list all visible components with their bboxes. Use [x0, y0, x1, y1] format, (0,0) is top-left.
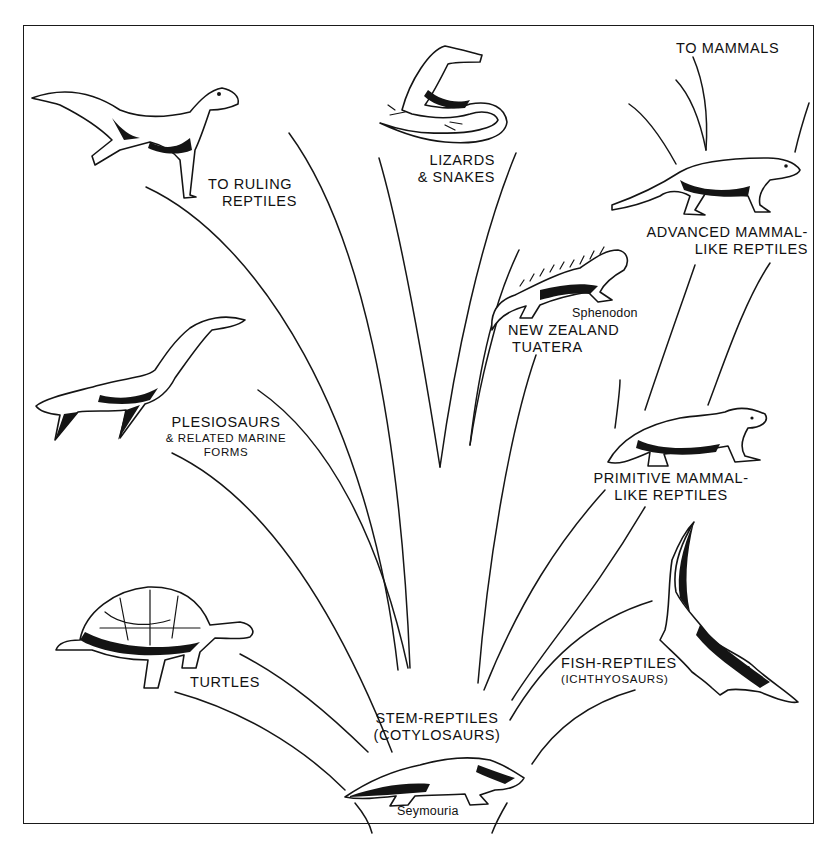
label-sphenodon: Sphenodon: [572, 305, 638, 322]
label-advanced-line2: LIKE REPTILES: [620, 241, 808, 258]
branch-advanced-1: [645, 265, 695, 410]
label-ruling-reptiles-line1: TO RULING: [208, 176, 297, 193]
label-ruling-reptiles: TO RULING REPTILES: [208, 176, 297, 210]
ichthyosaur-illustration: [660, 522, 798, 702]
label-turtles: TURTLES: [190, 674, 260, 691]
branch-mammals-1: [629, 104, 676, 164]
label-tuatera: NEW ZEALAND TUATERA: [508, 322, 619, 356]
label-turtles-line1: TURTLES: [190, 674, 260, 691]
label-plesiosaurs-line1: PLESIOSAURS: [158, 414, 294, 431]
label-stem-line2: (COTYLOSAURS): [362, 727, 512, 744]
branch-stem-right: [492, 803, 507, 833]
advanced-therapsid-illustration: [612, 158, 800, 215]
label-tuatera-line2: TUATERA: [508, 339, 619, 356]
branch-lizards-1: [379, 158, 440, 467]
label-stem-line1: STEM-REPTILES: [362, 710, 512, 727]
label-seymouria: Seymouria: [397, 803, 459, 820]
branch-turtles-upper: [240, 654, 368, 752]
label-plesiosaurs: PLESIOSAURS & RELATED MARINE FORMS: [158, 414, 294, 459]
lizard-illustration: [380, 46, 507, 143]
label-primitive-line1: PRIMITIVE MAMMAL-: [576, 470, 766, 487]
branch-advanced-2: [615, 380, 620, 428]
branch-plesiosaurs-1: [172, 453, 392, 752]
branch-ruling-reptiles-2: [289, 133, 410, 668]
label-advanced-line1: ADVANCED MAMMAL-: [620, 224, 808, 241]
branch-mammals-4: [795, 103, 809, 152]
tortoise-illustration: [56, 587, 253, 688]
label-ichthyosaurs-line2: (ICHTHYOSAURS): [561, 672, 677, 686]
label-to-mammals: TO MAMMALS: [676, 40, 779, 57]
label-plesiosaurs-line3: FORMS: [158, 445, 294, 459]
label-ichthyosaurs-line1: FISH-REPTILES: [561, 655, 677, 672]
label-advanced-mammal-like: ADVANCED MAMMAL- LIKE REPTILES: [620, 224, 808, 258]
branch-ichthyosaurs-2: [532, 690, 635, 764]
label-lizards-line2: & SNAKES: [400, 169, 495, 186]
label-primitive-line2: LIKE REPTILES: [576, 487, 766, 504]
label-ruling-reptiles-line2: REPTILES: [208, 193, 297, 210]
branch-stem-left: [355, 803, 372, 833]
label-primitive-mammal-like: PRIMITIVE MAMMAL- LIKE REPTILES: [576, 470, 766, 504]
branch-advanced-3: [708, 263, 770, 405]
label-ichthyosaurs: FISH-REPTILES (ICHTHYOSAURS): [561, 655, 677, 686]
label-plesiosaurs-line2: & RELATED MARINE: [158, 431, 294, 445]
label-tuatera-line1: NEW ZEALAND: [508, 322, 619, 339]
branch-tuatera-3: [478, 355, 536, 683]
branch-turtles-lower: [175, 692, 345, 790]
branch-tuatera-2: [470, 310, 500, 445]
seymouria-illustration: [345, 758, 524, 806]
label-stem-reptiles: STEM-REPTILES (COTYLOSAURS): [362, 710, 512, 744]
primitive-therapsid-illustration: [608, 408, 766, 466]
label-lizards-snakes: LIZARDS & SNAKES: [400, 152, 495, 186]
label-lizards-line1: LIZARDS: [400, 152, 495, 169]
branch-mammals-3: [693, 57, 707, 150]
branch-mammals-2: [676, 80, 706, 150]
label-mammals-line1: TO MAMMALS: [676, 40, 779, 57]
